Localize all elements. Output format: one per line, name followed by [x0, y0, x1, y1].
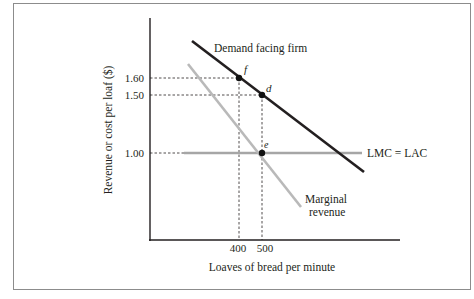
y-axis-title: Revenue or cost per loaf ($) [102, 65, 115, 194]
guide-lines [150, 78, 262, 240]
point-e [259, 150, 265, 156]
marginal-revenue-line [188, 64, 301, 207]
point-d [259, 92, 265, 98]
x-axis-title: Loaves of bread per minute [209, 261, 335, 274]
marginal-revenue-label-2: revenue [309, 206, 345, 218]
label-d: d [266, 82, 272, 94]
y-tick-160: 1.60 [125, 72, 145, 84]
y-tick-150: 1.50 [125, 89, 145, 101]
marginal-revenue-label-1: Marginal [305, 193, 347, 206]
chart: f d e Demand facing firm LMC = LAC Margi… [0, 0, 474, 299]
point-f [236, 75, 242, 81]
demand-label: Demand facing firm [214, 42, 307, 55]
x-tick-500: 500 [257, 242, 274, 254]
label-e: e [264, 139, 269, 150]
lmc-lac-label: LMC = LAC [367, 147, 427, 159]
label-f: f [244, 63, 249, 75]
y-tick-100: 1.00 [125, 147, 145, 159]
x-tick-400: 400 [230, 242, 247, 254]
